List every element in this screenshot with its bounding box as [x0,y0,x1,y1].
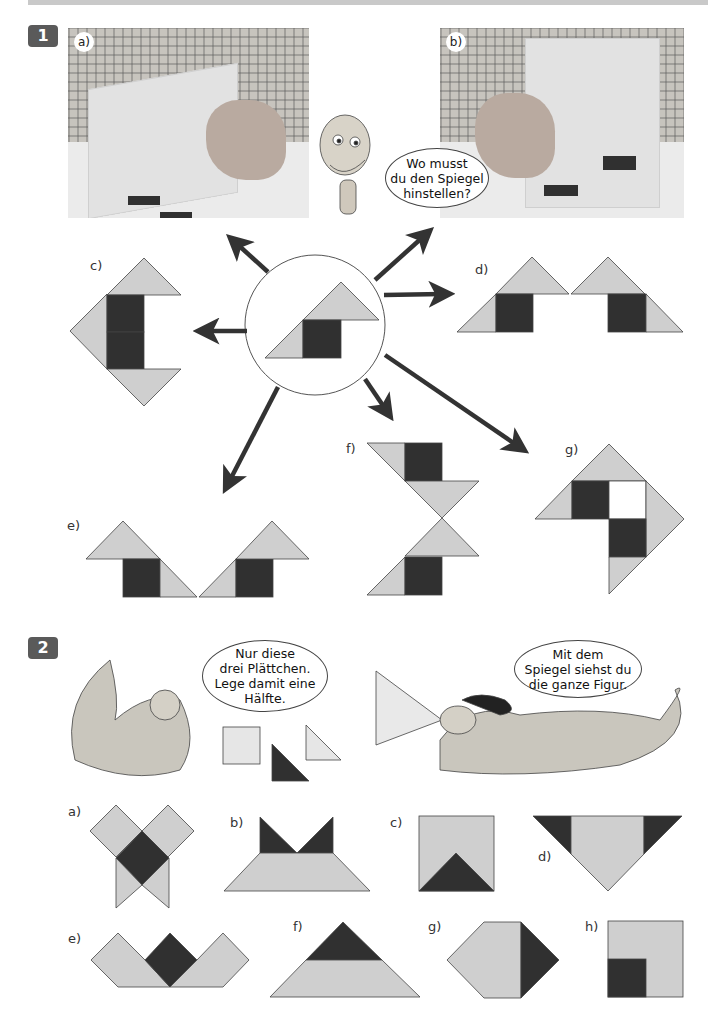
figure-label-2d: d) [538,849,551,864]
horse-mascot-illustration [320,115,370,214]
figure-label-1d: d) [475,262,488,277]
figures-canvas [0,0,708,1019]
dragon-right-illustration [376,671,681,774]
figure-label-1e: e) [67,518,80,533]
figure-label-2a: a) [68,804,81,819]
figure-label-2f: f) [293,919,303,934]
dragon-left-illustration [72,660,190,776]
figure-label-1g: g) [565,442,578,457]
figure-label-2b: b) [230,815,243,830]
figure-label-1f: f) [346,441,356,456]
figure-label-2h: h) [585,919,598,934]
figure-label-1c: c) [90,258,102,273]
figure-label-2e: e) [68,931,81,946]
figure-label-2c: c) [390,815,402,830]
figure-label-2g: g) [428,919,441,934]
